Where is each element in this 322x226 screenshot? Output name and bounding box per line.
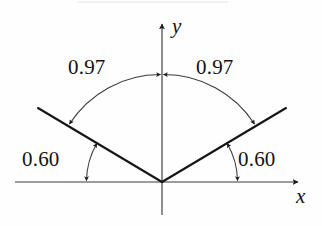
lower-right-value-label: 0.60	[238, 149, 276, 170]
upper-left-value-label: 0.97	[68, 57, 106, 78]
upper-left-arc-path	[70, 75, 161, 124]
upper-right-value-label: 0.97	[196, 57, 234, 78]
lower-left-arc-path	[87, 144, 97, 181]
y-axis-label: y	[172, 16, 181, 37]
x-axis-label: x	[296, 186, 305, 207]
diagram-canvas	[0, 0, 322, 226]
upper-right-arc-path	[164, 75, 255, 124]
lower-left-value-label: 0.60	[22, 149, 60, 170]
angle-diagram-figure: 0.97 0.97 0.60 0.60 y x	[0, 0, 322, 226]
lower-right-arc-path	[227, 144, 237, 181]
